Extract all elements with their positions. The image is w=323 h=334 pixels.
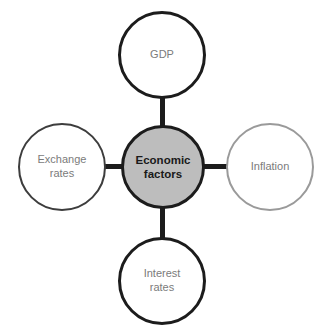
node-economic-factors-label: Economic factors	[130, 153, 197, 182]
node-exchange-rates-label: Exchange rates	[32, 153, 93, 181]
node-interest-rates[interactable]: Interest rates	[118, 237, 206, 325]
connector-center-to-interest-rates	[160, 204, 165, 238]
node-gdp[interactable]: GDP	[118, 11, 206, 99]
node-economic-factors-center[interactable]: Economic factors	[121, 125, 205, 209]
node-interest-rates-label: Interest rates	[138, 267, 187, 295]
node-inflation[interactable]: Inflation	[226, 123, 314, 211]
economic-factors-diagram: GDP Exchange rates Inflation Interest ra…	[0, 0, 323, 334]
node-gdp-label: GDP	[144, 48, 180, 62]
node-inflation-label: Inflation	[245, 160, 296, 174]
node-exchange-rates[interactable]: Exchange rates	[18, 123, 106, 211]
